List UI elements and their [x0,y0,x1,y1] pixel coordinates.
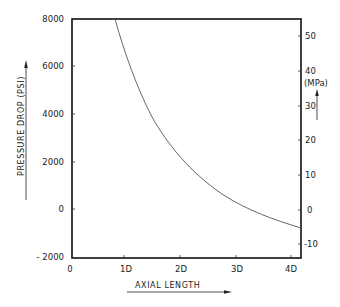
right-y-tick-labels: 50 40 30 20 10 0 -10 [304,31,318,249]
x-tick-labels: 0 1D 2D 3D 4D [67,264,297,274]
y2-tick-50: 50 [305,31,316,41]
y2-tick-0: 0 [307,205,312,215]
y-tick-2000: 2000 [42,157,64,167]
x-tick-3d: 3D [231,264,243,274]
x-tick-2d: 2D [175,264,187,274]
y2-tick-20: 20 [305,135,316,145]
x-tick-0: 0 [67,264,72,274]
pressure-drop-curve [115,19,301,228]
pressure-drop-chart: 8000 6000 4000 2000 0 - 2000 0 1D 2D 3D … [0,0,340,307]
y-tick-minus-2000: - 2000 [37,252,64,262]
y-axis-title: PRESSURE DROP (PSI) [17,76,26,176]
y2-tick-10: 10 [305,170,316,180]
x-tick-1d: 1D [120,264,132,274]
left-y-tick-labels: 8000 6000 4000 2000 0 - 2000 [37,14,64,262]
y-tick-6000: 6000 [42,61,64,71]
x-arrow-icon [127,290,232,294]
x-axis-title: AXIAL LENGTH [135,281,200,290]
y-tick-4000: 4000 [42,109,64,119]
y2-tick-30: 30 [305,101,316,111]
plot-frame [72,19,301,258]
y-tick-8000: 8000 [42,14,64,24]
x-tick-4d: 4D [285,264,297,274]
y2-tick-40: 40 [305,66,316,76]
y2-tick-minus-10: -10 [304,239,318,249]
y2-axis-title: (MPa) [304,78,328,88]
y-tick-0: 0 [59,204,64,214]
